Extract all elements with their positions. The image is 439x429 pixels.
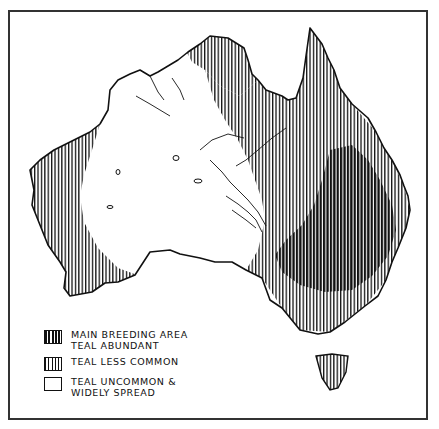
legend-label: TEAL LESS COMMON bbox=[71, 356, 179, 367]
legend-label: TEAL UNCOMMON & bbox=[71, 376, 176, 387]
legend-item-less-common: TEAL LESS COMMON bbox=[44, 356, 188, 371]
legend-label: TEAL ABUNDANT bbox=[71, 340, 188, 351]
legend-item-uncommon: TEAL UNCOMMON & WIDELY SPREAD bbox=[44, 376, 188, 398]
legend-item-main-breeding: MAIN BREEDING AREA TEAL ABUNDANT bbox=[44, 329, 188, 351]
tasmania bbox=[316, 354, 348, 390]
light-hatch-swatch-icon bbox=[44, 357, 62, 371]
map-legend: MAIN BREEDING AREA TEAL ABUNDANT TEAL LE… bbox=[44, 329, 188, 403]
blank-swatch-icon bbox=[44, 377, 62, 391]
legend-label: MAIN BREEDING AREA bbox=[71, 329, 188, 340]
legend-label: WIDELY SPREAD bbox=[71, 387, 176, 398]
dense-hatch-swatch-icon bbox=[44, 330, 62, 344]
